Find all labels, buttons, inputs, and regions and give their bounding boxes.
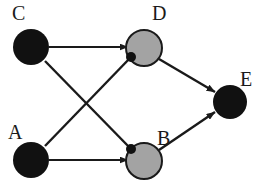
node-label-d: D [152, 2, 166, 24]
node-label-b: B [157, 127, 170, 149]
node-label-a: A [8, 121, 23, 143]
node-label-e: E [240, 68, 252, 90]
arrowhead-dot-into-b [126, 144, 136, 154]
edge-head-layer [126, 52, 136, 154]
node-c-circle[interactable] [13, 29, 49, 65]
diagram-canvas: C D A B E [0, 0, 259, 182]
arrowhead-dot-into-d [126, 52, 136, 62]
edge-c-to-b [45, 61, 131, 149]
graph-svg: C D A B E [0, 0, 259, 182]
node-e-circle[interactable] [213, 85, 247, 119]
node-label-c: C [12, 2, 25, 24]
node-a-circle[interactable] [13, 142, 49, 178]
edge-a-to-d [45, 57, 131, 146]
label-layer: C D A B E [8, 2, 252, 149]
edge-layer [45, 47, 215, 160]
edge-d-to-e [159, 59, 215, 92]
node-layer [13, 29, 247, 179]
